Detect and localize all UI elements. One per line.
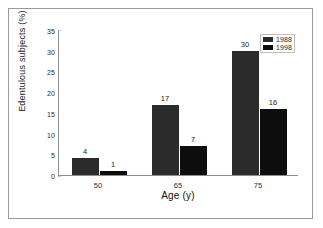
- bar: 1: [100, 171, 127, 175]
- y-tick-label: 35: [1, 28, 55, 35]
- legend-label: 1998: [276, 44, 292, 51]
- bar: 7: [180, 146, 207, 175]
- bar: 17: [152, 105, 179, 175]
- bar-value-label: 30: [241, 40, 249, 49]
- legend-item: 1998: [263, 44, 292, 51]
- y-tick-label: 0: [1, 173, 55, 180]
- bar: 16: [260, 109, 287, 175]
- legend-swatch-icon: [263, 37, 273, 42]
- bar-value-label: 17: [161, 94, 169, 103]
- chart-legend: 19881998: [260, 34, 295, 53]
- legend-item: 1988: [263, 36, 292, 43]
- x-tick-label: 65: [158, 181, 198, 190]
- x-tick-label: 50: [78, 181, 118, 190]
- x-tick-label: 75: [238, 181, 278, 190]
- y-tick-label: 15: [1, 110, 55, 117]
- y-tick-label: 25: [1, 69, 55, 76]
- x-axis-title: Age (y): [58, 190, 298, 201]
- plot-area: 411773016 19881998: [58, 31, 298, 176]
- bar: 4: [72, 158, 99, 175]
- bar-value-label: 4: [83, 147, 87, 156]
- bar-value-label: 7: [191, 135, 195, 144]
- figure-container: Edentulous subjects (%) 05101520253035 4…: [0, 0, 323, 228]
- bar: 30: [232, 51, 259, 175]
- y-tick-label: 10: [1, 131, 55, 138]
- legend-swatch-icon: [263, 45, 273, 50]
- bar-value-label: 16: [269, 98, 277, 107]
- y-tick-label: 5: [1, 152, 55, 159]
- legend-label: 1988: [276, 36, 292, 43]
- bar-value-label: 1: [111, 160, 115, 169]
- y-axis-ticks: 05101520253035: [0, 31, 58, 177]
- y-tick-label: 20: [1, 90, 55, 97]
- y-tick-label: 30: [1, 48, 55, 55]
